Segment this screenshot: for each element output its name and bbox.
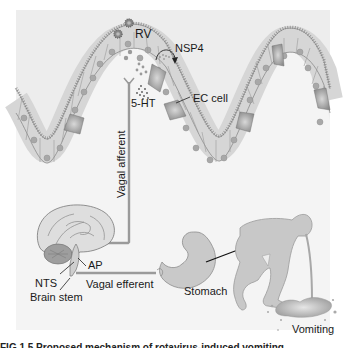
label-nsp4: NSP4 <box>175 43 204 54</box>
label-ec-cell: EC cell <box>193 93 228 104</box>
label-vagal-afferent: Vagal afferent <box>116 131 127 198</box>
label-vagal-efferent: Vagal efferent <box>86 279 153 290</box>
label-rv: RV <box>135 28 151 40</box>
figure-stage: RV NSP4 5-HT EC cell Vagal afferent AP N… <box>0 0 360 348</box>
label-stomach: Stomach <box>184 286 227 297</box>
figure-caption-fragment: FIG 1.5 Proposed mechanism of rotavirus-… <box>0 341 284 348</box>
label-brain-stem: Brain stem <box>30 292 83 303</box>
label-nts: NTS <box>35 278 57 289</box>
speck <box>277 329 279 331</box>
label-5ht: 5-HT <box>131 98 155 109</box>
label-ap: AP <box>88 260 103 271</box>
label-vomiting: Vomiting <box>292 324 334 335</box>
